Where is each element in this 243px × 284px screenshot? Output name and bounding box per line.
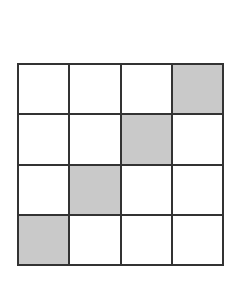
shaded-cell	[173, 65, 222, 113]
empty-cell	[70, 216, 119, 264]
empty-cell	[19, 115, 68, 163]
empty-cell	[173, 115, 222, 163]
empty-cell	[122, 65, 171, 113]
empty-cell	[122, 216, 171, 264]
shaded-cell	[70, 166, 119, 214]
empty-cell	[19, 65, 68, 113]
empty-cell	[70, 65, 119, 113]
empty-cell	[173, 166, 222, 214]
empty-cell	[70, 115, 119, 163]
shaded-cell	[19, 216, 68, 264]
empty-cell	[122, 166, 171, 214]
empty-cell	[19, 166, 68, 214]
empty-cell	[173, 216, 222, 264]
grid-diagram	[17, 63, 224, 266]
shaded-cell	[122, 115, 171, 163]
